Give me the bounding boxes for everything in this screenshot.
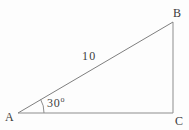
triangle-diagram: A B C 10 30o [0, 0, 189, 130]
angle-arc-at-a [41, 99, 45, 113]
angle-value-text: 30 [47, 96, 61, 110]
vertex-label-a: A [5, 111, 14, 123]
edge-ab-line [18, 22, 173, 113]
vertex-label-c: C [175, 115, 183, 127]
vertex-label-b: B [173, 7, 181, 19]
degree-symbol: o [61, 95, 65, 104]
triangle-svg [0, 0, 189, 130]
angle-measure-label: 30o [47, 96, 65, 109]
hypotenuse-length-label: 10 [82, 50, 96, 62]
